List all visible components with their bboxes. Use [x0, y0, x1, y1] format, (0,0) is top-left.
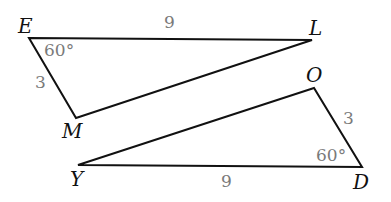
vertex-label-o: O [306, 63, 322, 87]
angle-e-measure: 60° [44, 40, 74, 60]
angle-d-measure: 60° [316, 145, 346, 165]
vertex-label-l: L [308, 16, 322, 40]
vertex-label-y: Y [70, 167, 85, 191]
vertex-label-d: D [352, 170, 369, 194]
vertex-label-m: M [61, 119, 83, 143]
triangle-diagram: E L M O Y D 9 3 60° 9 3 60° [0, 0, 391, 202]
side-od-length: 3 [343, 108, 354, 128]
vertex-label-e: E [17, 14, 33, 38]
side-el-length: 9 [164, 12, 175, 32]
side-yd-length: 9 [221, 171, 232, 191]
side-em-length: 3 [35, 72, 46, 92]
